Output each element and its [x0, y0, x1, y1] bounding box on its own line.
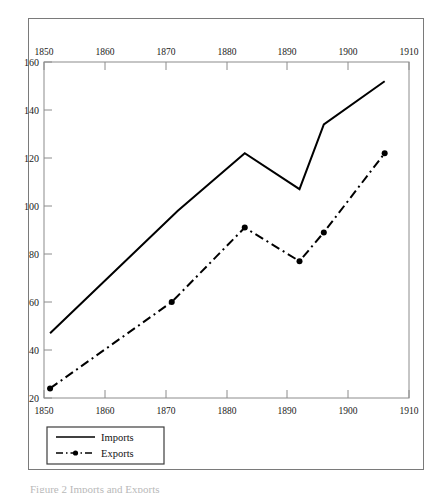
top-axis-labels: 1850 1860 1870 1880 1890 1900 1910: [35, 47, 419, 57]
top-tick-label: 1870: [157, 47, 176, 57]
y-axis-labels: 160 140 120 100 80 60 40 20: [24, 57, 39, 404]
series-line-exports: [50, 153, 385, 388]
bottom-tick-label: 1910: [400, 406, 419, 416]
bottom-tick-label: 1850: [35, 406, 54, 416]
y-tick-label: 100: [24, 201, 39, 212]
data-point-exports: [321, 229, 327, 235]
y-tick-label: 160: [24, 57, 39, 68]
top-tick-label: 1910: [400, 47, 419, 57]
data-point-exports: [382, 150, 388, 156]
figure-caption: Figure 2 Imports and Exports: [30, 483, 420, 493]
y-axis-ticks: [44, 62, 52, 398]
data-point-exports: [47, 385, 53, 391]
chart-legend: Imports Exports: [47, 427, 164, 464]
legend-marker-exports: [73, 450, 78, 455]
top-tick-label: 1880: [218, 47, 237, 57]
y-tick-label: 60: [29, 297, 39, 308]
plot-frame: [44, 62, 409, 398]
bottom-axis-ticks: [44, 390, 409, 398]
legend-label-imports: Imports: [101, 432, 134, 443]
data-point-exports: [169, 299, 175, 305]
line-chart: 1850 1860 1870 1880 1890 1900 1910 1850 …: [0, 0, 442, 493]
series-line-imports: [50, 81, 385, 333]
legend-label-exports: Exports: [101, 448, 134, 459]
top-tick-label: 1900: [339, 47, 358, 57]
top-tick-label: 1860: [96, 47, 115, 57]
bottom-tick-label: 1880: [218, 406, 237, 416]
bottom-tick-label: 1900: [339, 406, 358, 416]
y-tick-label: 140: [24, 105, 39, 116]
y-tick-label: 40: [29, 345, 39, 356]
y-tick-label: 80: [29, 249, 39, 260]
bottom-tick-label: 1870: [157, 406, 176, 416]
bottom-axis-labels: 1850 1860 1870 1880 1890 1900 1910: [35, 406, 419, 416]
bottom-tick-label: 1890: [278, 406, 297, 416]
data-series-layer: [47, 81, 388, 391]
plot-border: [44, 62, 409, 398]
top-tick-label: 1850: [35, 47, 54, 57]
y-tick-label: 120: [24, 153, 39, 164]
data-point-exports: [297, 258, 303, 264]
bottom-tick-label: 1860: [96, 406, 115, 416]
data-point-exports: [242, 225, 248, 231]
top-axis-ticks: [44, 62, 409, 70]
top-tick-label: 1890: [278, 47, 297, 57]
y-tick-label: 20: [29, 393, 39, 404]
